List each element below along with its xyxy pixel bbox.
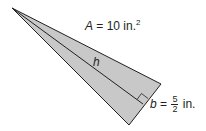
height-label: h [93,56,100,68]
area-exponent: 2 [136,18,140,27]
area-var: A [85,19,93,33]
area-value: = 10 in. [93,19,136,33]
base-var: b [150,97,157,111]
area-label: A = 10 in.2 [85,19,141,32]
fraction-denominator: 2 [171,105,178,114]
base-label: b = 52 in. [150,95,195,114]
base-unit: in. [179,97,195,111]
base-fraction: 52 [171,95,178,114]
base-equals: = [157,97,171,111]
